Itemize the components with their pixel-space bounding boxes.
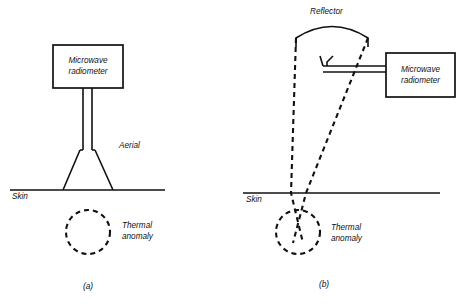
- panel-b-radiometer-label-line2: radiometer: [401, 76, 440, 85]
- panel-b-radiometer-label-line1: Microwave: [401, 65, 441, 74]
- panel-a-thermal-anomaly-label-line2: anomaly: [122, 232, 154, 241]
- panel-a-caption: (a): [83, 281, 93, 291]
- panel-b-reflector-arc: [296, 27, 368, 48]
- panel-b-thermal-anomaly-label-line1: Thermal: [331, 223, 361, 232]
- panel-b-thermal-anomaly-label-line2: anomaly: [331, 234, 363, 243]
- panel-b-caption: (b): [319, 279, 329, 289]
- figure-microwave-radiometry-diagram: Microwave radiometer Aerial Skin Thermal…: [0, 0, 461, 308]
- panel-a-radiometer-label-line1: Microwave: [68, 56, 108, 65]
- panel-b-feed-horn: [320, 56, 333, 66]
- panel-b-radiometer-box: [386, 53, 455, 97]
- panel-a-horn-aerial: [63, 150, 113, 190]
- panel-a-thermal-anomaly-label-line1: Thermal: [122, 221, 152, 230]
- panel-b-beam-right: [293, 38, 368, 243]
- panel-a-thermal-anomaly-circle: [66, 210, 110, 254]
- panel-b-thermal-anomaly-circle: [276, 210, 320, 254]
- panel-a: Microwave radiometer Aerial Skin Thermal…: [10, 45, 165, 291]
- panel-a-radiometer-label-line2: radiometer: [68, 67, 107, 76]
- panel-a-aerial-label: Aerial: [118, 141, 140, 150]
- panel-b-reflector-label: Reflector: [310, 7, 343, 16]
- panel-b: Reflector Microwave radiometer Skin Ther…: [243, 7, 455, 289]
- panel-a-skin-label: Skin: [12, 192, 28, 201]
- panel-b-beam-left: [291, 38, 303, 243]
- panel-b-skin-label: Skin: [246, 195, 262, 204]
